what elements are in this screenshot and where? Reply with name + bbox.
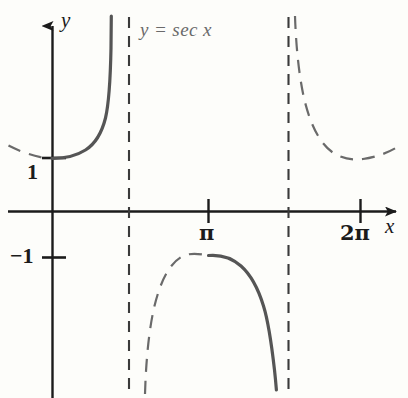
- x-axis-label: x: [385, 216, 394, 237]
- sec-curve-branch1-dashed: [9, 146, 53, 159]
- x-tick-label-2pi: 2π: [340, 222, 370, 243]
- sec-curve-branch2-dashed: [145, 254, 209, 394]
- y-tick-label-neg-1: −1: [10, 245, 34, 267]
- equation-annotation: y = sec x: [140, 20, 212, 39]
- sec-curve-branch2-solid: [209, 255, 277, 390]
- sec-x-graph-figure: y = sec x y x 1 −1 π 2π: [0, 0, 408, 398]
- x-tick-label-pi: π: [199, 222, 214, 243]
- y-tick-label-1: 1: [27, 161, 38, 183]
- sec-curve-branch1-solid: [53, 16, 112, 158]
- y-axis-label: y: [61, 10, 70, 31]
- plot-canvas: [0, 0, 408, 398]
- sec-curve-branch3-dashed: [295, 16, 399, 159]
